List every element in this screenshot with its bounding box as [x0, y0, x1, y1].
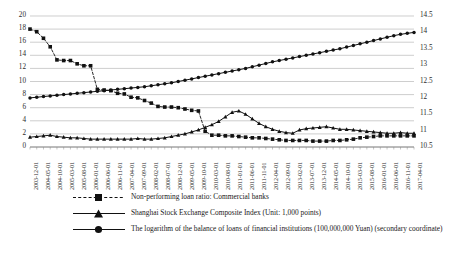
chart-legend: Non-performing loan ratio: Commercial ba… — [72, 192, 456, 240]
legend-item-loans: The logarithm of the balance of loans of… — [72, 224, 456, 236]
y-axis-left-tick: 18 — [2, 25, 26, 32]
x-axis-tick: 2005-08-01 — [81, 162, 87, 190]
y-axis-right-tick: 14 — [420, 28, 450, 35]
x-axis-tick: 2009-05-01 — [189, 162, 195, 190]
x-axis-tick: 2008-12-01 — [177, 162, 183, 190]
legend-label-sse: Shanghai Stock Exchange Composite Index … — [131, 208, 321, 218]
x-axis-tick: 2013-12-01 — [321, 162, 327, 190]
y-axis-left-tick: 8 — [2, 91, 26, 98]
x-axis-tick: 2014-10-01 — [345, 162, 351, 190]
x-axis-tick: 2012-04-01 — [273, 162, 279, 190]
x-axis-tick: 2007-09-01 — [141, 162, 147, 190]
y-axis-right-tick: 12 — [420, 94, 450, 101]
y-axis-left-tick: 10 — [2, 78, 26, 85]
x-axis-tick: 2014-05-01 — [333, 162, 339, 190]
x-axis-tick: 2005-03-01 — [69, 162, 75, 190]
x-axis-tick: 2006-01-01 — [93, 162, 99, 190]
y-axis-left-tick: 12 — [2, 64, 26, 71]
y-axis-right-tick: 12.5 — [420, 78, 450, 85]
y-axis-right-tick: 14.5 — [420, 12, 450, 19]
x-axis-tick: 2016-11-01 — [405, 162, 411, 190]
x-axis-tick: 2011-06-01 — [249, 162, 255, 190]
x-axis-tick: 2010-08-01 — [225, 162, 231, 190]
y-axis-left-tick: 6 — [2, 104, 26, 111]
x-axis-tick: 2013-07-01 — [309, 162, 315, 190]
x-axis-tick: 2016-01-01 — [381, 162, 387, 190]
y-axis-left-tick: 0 — [2, 143, 26, 150]
x-axis-tick: 2007-04-01 — [129, 162, 135, 190]
y-axis-left-tick: 14 — [2, 51, 26, 58]
x-axis-tick: 2004-05-01 — [45, 162, 51, 190]
y-axis-left-tick: 20 — [2, 12, 26, 19]
legend-label-loans: The logarithm of the balance of loans of… — [131, 224, 442, 234]
x-axis-tick: 2009-10-01 — [201, 162, 207, 190]
y-axis-left-tick: 16 — [2, 38, 26, 45]
legend-label-npl: Non-performing loan ratio: Commercial ba… — [131, 192, 269, 202]
x-axis-tick: 2015-03-01 — [357, 162, 363, 190]
y-axis-right-tick: 11 — [420, 127, 450, 134]
x-axis-tick: 2006-11-01 — [117, 162, 123, 190]
x-axis-tick: 2012-09-01 — [285, 162, 291, 190]
y-axis-right-tick: 13.5 — [420, 45, 450, 52]
x-axis-tick: 2017-04-01 — [417, 162, 423, 190]
x-axis-tick: 2011-11-01 — [261, 162, 267, 190]
y-axis-left-tick: 4 — [2, 117, 26, 124]
x-axis-tick: 2010-03-01 — [213, 162, 219, 190]
legend-marker-triangle-solid-icon — [72, 208, 126, 219]
x-axis-tick: 2011-01-01 — [237, 162, 243, 190]
x-axis-tick: 2006-06-01 — [105, 162, 111, 190]
x-axis-tick: 2015-08-01 — [369, 162, 375, 190]
legend-marker-circle-solid-icon — [72, 224, 126, 235]
y-axis-right-tick: 11.5 — [420, 110, 450, 117]
x-axis-tick: 2016-06-01 — [393, 162, 399, 190]
x-axis-tick: 2008-07-01 — [165, 162, 171, 190]
y-axis-right-tick: 13 — [420, 61, 450, 68]
legend-item-npl: Non-performing loan ratio: Commercial ba… — [72, 192, 456, 204]
x-axis-tick: 2003-12-01 — [33, 162, 39, 190]
x-axis-tick: 2013-02-01 — [297, 162, 303, 190]
x-axis-tick: 2008-02-01 — [153, 162, 159, 190]
legend-marker-square-dashed-icon — [72, 192, 126, 203]
chart-figure: 02468101214161820 10.51111.51212.51313.5… — [0, 0, 456, 259]
x-axis-tick: 2004-10-01 — [57, 162, 63, 190]
y-axis-right-tick: 10.5 — [420, 143, 450, 150]
y-axis-left-tick: 2 — [2, 130, 26, 137]
legend-item-sse: Shanghai Stock Exchange Composite Index … — [72, 208, 456, 220]
